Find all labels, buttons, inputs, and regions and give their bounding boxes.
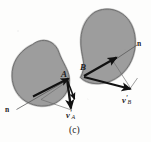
normal-label-right: n xyxy=(137,40,141,48)
normal-label-left: n xyxy=(5,106,9,114)
point-b-label: B xyxy=(80,63,86,72)
figure-caption: (c) xyxy=(69,125,80,135)
velocity-a-subscript: A xyxy=(72,114,76,120)
construction-line-b2 xyxy=(131,78,138,88)
velocity-b-subscript: B xyxy=(128,99,132,105)
velocity-a-label: v'A xyxy=(66,110,75,120)
point-a-label: A xyxy=(61,70,67,79)
figure-container: n n A B v'A v'B (c) xyxy=(0,0,151,142)
figure-svg xyxy=(0,0,151,142)
velocity-b-label: v'B xyxy=(122,95,131,105)
